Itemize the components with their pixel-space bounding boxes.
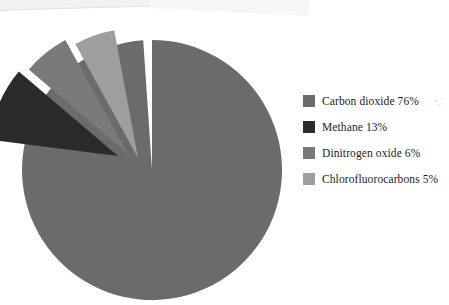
chart-legend: Carbon dioxide 76% Methane 13% Dinitroge…	[303, 88, 449, 192]
legend-swatch-chlorofluorocarbons	[303, 173, 315, 185]
legend-item-chlorofluorocarbons[interactable]: Chlorofluorocarbons 5%	[303, 166, 449, 192]
legend-item-carbon-dioxide[interactable]: Carbon dioxide 76%	[303, 88, 449, 114]
legend-label-chlorofluorocarbons: Chlorofluorocarbons 5%	[322, 173, 438, 185]
legend-label-methane: Methane 13%	[322, 121, 387, 133]
pie-chart-svg	[0, 0, 300, 305]
pie-chart	[0, 0, 300, 305]
legend-label-dinitrogen-oxide: Dinitrogen oxide 6%	[322, 147, 420, 159]
legend-item-dinitrogen-oxide[interactable]: Dinitrogen oxide 6%	[303, 140, 449, 166]
legend-swatch-dinitrogen-oxide	[303, 147, 315, 159]
legend-swatch-carbon-dioxide	[303, 95, 315, 107]
chart-page: Carbon dioxide 76% Methane 13% Dinitroge…	[0, 0, 449, 305]
legend-item-methane[interactable]: Methane 13%	[303, 114, 449, 140]
legend-label-carbon-dioxide: Carbon dioxide 76%	[322, 95, 419, 107]
legend-swatch-methane	[303, 121, 315, 133]
